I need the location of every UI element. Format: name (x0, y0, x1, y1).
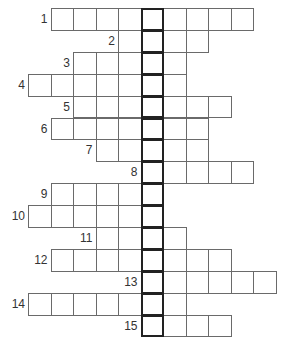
letter-cell[interactable] (118, 139, 142, 162)
letter-cell[interactable] (73, 205, 97, 228)
letter-cell[interactable] (163, 161, 187, 184)
letter-cell[interactable] (163, 293, 187, 316)
letter-cell[interactable] (96, 118, 120, 141)
letter-cell[interactable] (73, 249, 97, 272)
letter-cell[interactable] (96, 52, 120, 75)
letter-cell[interactable] (96, 249, 120, 272)
clue-number: 15 (114, 319, 138, 333)
clue-number: 11 (69, 231, 93, 245)
letter-cell[interactable] (186, 161, 210, 184)
key-column-cell[interactable] (141, 205, 165, 228)
key-column-cell[interactable] (141, 8, 165, 31)
clue-number: 1 (24, 12, 48, 26)
letter-cell[interactable] (73, 8, 97, 31)
key-column-cell[interactable] (141, 293, 165, 316)
letter-cell[interactable] (118, 293, 142, 316)
letter-cell[interactable] (73, 183, 97, 206)
letter-cell[interactable] (163, 249, 187, 272)
letter-cell[interactable] (96, 139, 120, 162)
letter-cell[interactable] (231, 271, 255, 294)
letter-cell[interactable] (118, 74, 142, 97)
letter-cell[interactable] (51, 249, 75, 272)
letter-cell[interactable] (73, 118, 97, 141)
letter-cell[interactable] (118, 205, 142, 228)
letter-cell[interactable] (96, 96, 120, 119)
letter-cell[interactable] (118, 30, 142, 53)
letter-cell[interactable] (163, 315, 187, 338)
letter-cell[interactable] (51, 8, 75, 31)
letter-cell[interactable] (118, 249, 142, 272)
letter-cell[interactable] (51, 205, 75, 228)
letter-cell[interactable] (208, 249, 232, 272)
letter-cell[interactable] (51, 183, 75, 206)
key-column-cell[interactable] (141, 139, 165, 162)
letter-cell[interactable] (118, 118, 142, 141)
letter-cell[interactable] (96, 183, 120, 206)
letter-cell[interactable] (208, 271, 232, 294)
clue-number: 9 (24, 187, 48, 201)
letter-cell[interactable] (186, 118, 210, 141)
key-column-cell[interactable] (141, 96, 165, 119)
letter-cell[interactable] (96, 227, 120, 250)
key-column-cell[interactable] (141, 118, 165, 141)
clue-number: 5 (46, 100, 70, 114)
letter-cell[interactable] (163, 74, 187, 97)
letter-cell[interactable] (186, 315, 210, 338)
letter-cell[interactable] (163, 271, 187, 294)
key-column-cell[interactable] (141, 249, 165, 272)
letter-cell[interactable] (51, 293, 75, 316)
key-column-cell[interactable] (141, 315, 165, 338)
key-column-cell[interactable] (141, 183, 165, 206)
letter-cell[interactable] (163, 52, 187, 75)
key-column-cell[interactable] (141, 52, 165, 75)
letter-cell[interactable] (163, 118, 187, 141)
letter-cell[interactable] (73, 293, 97, 316)
letter-cell[interactable] (163, 139, 187, 162)
letter-cell[interactable] (73, 52, 97, 75)
letter-cell[interactable] (118, 52, 142, 75)
letter-cell[interactable] (208, 96, 232, 119)
clue-number: 3 (46, 56, 70, 70)
letter-cell[interactable] (208, 161, 232, 184)
letter-cell[interactable] (163, 227, 187, 250)
key-column-cell[interactable] (141, 227, 165, 250)
letter-cell[interactable] (186, 249, 210, 272)
letter-cell[interactable] (186, 271, 210, 294)
letter-cell[interactable] (208, 8, 232, 31)
letter-cell[interactable] (96, 8, 120, 31)
letter-cell[interactable] (28, 74, 52, 97)
letter-cell[interactable] (96, 293, 120, 316)
letter-cell[interactable] (96, 74, 120, 97)
key-column-cell[interactable] (141, 271, 165, 294)
clue-number: 7 (69, 143, 93, 157)
letter-cell[interactable] (51, 118, 75, 141)
key-column-cell[interactable] (141, 30, 165, 53)
letter-cell[interactable] (118, 96, 142, 119)
letter-cell[interactable] (253, 271, 277, 294)
clue-number: 13 (114, 275, 138, 289)
letter-cell[interactable] (186, 8, 210, 31)
letter-cell[interactable] (118, 183, 142, 206)
letter-cell[interactable] (186, 96, 210, 119)
letter-cell[interactable] (186, 139, 210, 162)
clue-number: 8 (114, 165, 138, 179)
letter-cell[interactable] (28, 205, 52, 228)
letter-cell[interactable] (51, 74, 75, 97)
letter-cell[interactable] (118, 8, 142, 31)
letter-cell[interactable] (163, 96, 187, 119)
letter-cell[interactable] (73, 74, 97, 97)
key-column-cell[interactable] (141, 74, 165, 97)
letter-cell[interactable] (96, 205, 120, 228)
clue-number: 4 (1, 78, 25, 92)
letter-cell[interactable] (208, 315, 232, 338)
letter-cell[interactable] (186, 30, 210, 53)
letter-cell[interactable] (28, 293, 52, 316)
key-column-cell[interactable] (141, 161, 165, 184)
letter-cell[interactable] (118, 227, 142, 250)
letter-cell[interactable] (163, 8, 187, 31)
letter-cell[interactable] (231, 8, 255, 31)
clue-number: 14 (1, 297, 25, 311)
letter-cell[interactable] (163, 30, 187, 53)
letter-cell[interactable] (231, 161, 255, 184)
letter-cell[interactable] (73, 96, 97, 119)
